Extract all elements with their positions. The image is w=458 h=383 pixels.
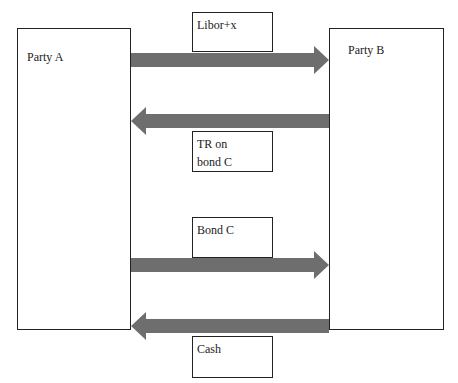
libor-text: Libor+x (197, 18, 236, 32)
party-a-box: Party A (17, 28, 131, 330)
party-a-label: Party A (27, 50, 63, 65)
flow-label-cash: Cash (192, 336, 273, 378)
bond-text: Bond C (197, 223, 234, 237)
party-b-label: Party B (348, 43, 384, 58)
cash-text: Cash (197, 342, 221, 356)
tr-text-line1: TR on (197, 135, 268, 153)
flow-label-bond: Bond C (192, 217, 273, 258)
tr-text-line2: bond C (197, 153, 268, 171)
flow-label-tr-bond: TR on bond C (192, 131, 273, 172)
party-b-box: Party B (329, 28, 444, 330)
flow-label-libor: Libor+x (192, 12, 273, 52)
